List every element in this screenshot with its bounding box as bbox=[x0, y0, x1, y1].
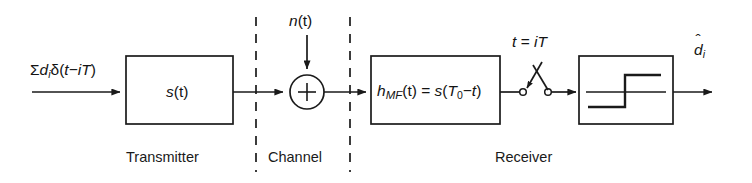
input-d-symbol: d bbox=[40, 61, 49, 78]
sampling-equals-sign: = bbox=[521, 33, 530, 50]
input-close-paren: ) bbox=[91, 61, 96, 78]
matched-filter-label: hMF(t) = s(T0−t) bbox=[377, 83, 481, 102]
section-label-receiver: Receiver bbox=[495, 150, 552, 165]
mf-args-equals: (t) = bbox=[402, 82, 434, 99]
mf-close-paren: ) bbox=[476, 82, 481, 99]
transmitter-filter-label: s(t) bbox=[166, 84, 188, 100]
block-diagram-svg bbox=[0, 0, 752, 183]
mf-minus-sign: − bbox=[463, 82, 472, 99]
noise-args: (t) bbox=[298, 12, 313, 29]
switch-left-terminal bbox=[520, 89, 527, 96]
sampling-instant-label: t = iT bbox=[512, 34, 547, 50]
input-sigma-symbol: Σ bbox=[30, 61, 40, 78]
mf-T-symbol: T bbox=[447, 82, 456, 99]
output-signal-label: ˆdi bbox=[694, 42, 705, 59]
mf-h-symbol: h bbox=[377, 82, 386, 99]
sampling-iT-symbol: iT bbox=[534, 33, 547, 50]
input-minus-sign: − bbox=[69, 61, 78, 78]
input-signal-label: Σdiδ(t−iT) bbox=[30, 62, 96, 79]
input-T-symbol: T bbox=[81, 61, 90, 78]
hat-accent-icon: ˆ bbox=[696, 32, 701, 48]
sampling-t-symbol: t bbox=[512, 33, 516, 50]
figure-canvas: Σdiδ(t−iT) s(t) n(t) hMF(t) = s(T0−t) t … bbox=[0, 0, 752, 183]
transmitter-s-args: (t) bbox=[174, 83, 189, 100]
section-label-channel: Channel bbox=[268, 150, 322, 165]
input-delta-symbol: δ( bbox=[51, 61, 65, 78]
output-d-hat: ˆd bbox=[694, 42, 703, 58]
mf-subscript-MF: MF bbox=[386, 89, 403, 101]
section-label-transmitter: Transmitter bbox=[126, 150, 199, 165]
noise-n-symbol: n bbox=[289, 12, 298, 29]
switch-lever bbox=[533, 65, 548, 90]
transmitter-s-symbol: s bbox=[166, 83, 174, 100]
noise-label: n(t) bbox=[289, 13, 312, 29]
